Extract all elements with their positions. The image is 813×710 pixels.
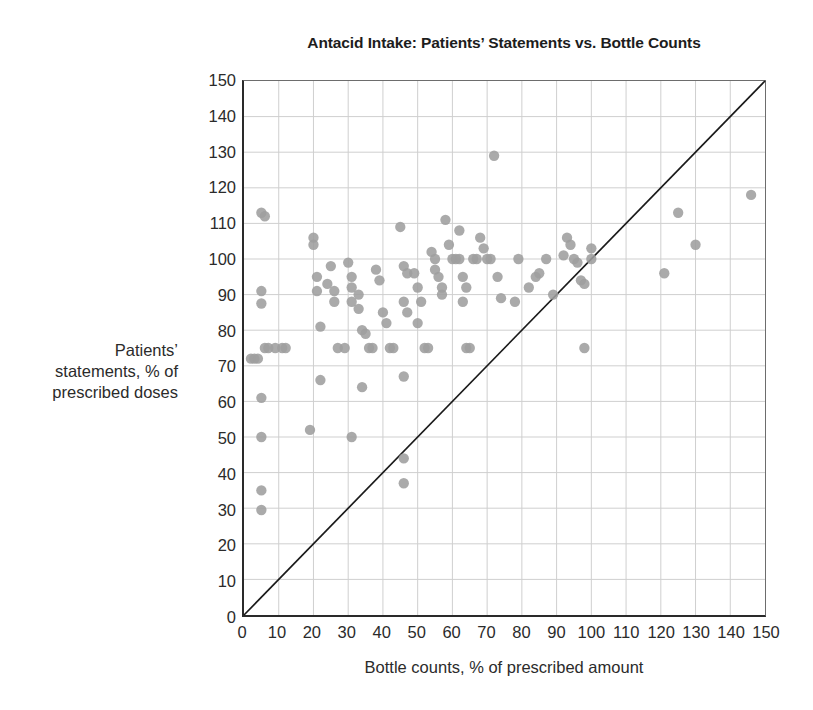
data-point bbox=[524, 282, 534, 292]
data-point bbox=[690, 240, 700, 250]
y-tick-label: 140 bbox=[192, 108, 236, 125]
data-point bbox=[281, 343, 291, 353]
data-point bbox=[496, 293, 506, 303]
y-tick-label: 70 bbox=[192, 358, 236, 375]
data-point bbox=[412, 282, 422, 292]
data-point bbox=[402, 307, 412, 317]
y-tick-label: 10 bbox=[192, 573, 236, 590]
data-point bbox=[256, 298, 266, 308]
data-point bbox=[572, 257, 582, 267]
y-tick-label: 20 bbox=[192, 537, 236, 554]
data-point bbox=[253, 354, 263, 364]
data-point bbox=[357, 382, 367, 392]
data-point bbox=[430, 254, 440, 264]
data-point bbox=[492, 272, 502, 282]
y-tick-label: 30 bbox=[192, 502, 236, 519]
data-point bbox=[399, 371, 409, 381]
y-tick-label: 150 bbox=[192, 72, 236, 89]
y-axis-title-line: prescribed doses bbox=[10, 382, 178, 403]
data-point bbox=[326, 261, 336, 271]
data-point bbox=[308, 240, 318, 250]
x-axis-title: Bottle counts, % of prescribed amount bbox=[242, 658, 766, 677]
plot-area bbox=[242, 80, 766, 617]
data-point bbox=[465, 343, 475, 353]
data-point bbox=[353, 289, 363, 299]
y-tick-label: 130 bbox=[192, 144, 236, 161]
x-axis-tick-labels: 0102030405060708090100110120130140150 bbox=[242, 624, 766, 648]
data-point bbox=[510, 297, 520, 307]
data-points bbox=[244, 81, 765, 615]
data-point bbox=[458, 272, 468, 282]
data-point bbox=[558, 250, 568, 260]
data-point bbox=[423, 343, 433, 353]
scatter-chart-figure: Antacid Intake: Patients’ Statements vs.… bbox=[0, 0, 813, 710]
data-point bbox=[746, 190, 756, 200]
data-point bbox=[399, 453, 409, 463]
data-point bbox=[586, 254, 596, 264]
data-point bbox=[371, 265, 381, 275]
data-point bbox=[454, 254, 464, 264]
data-point bbox=[340, 343, 350, 353]
data-point bbox=[395, 222, 405, 232]
data-point bbox=[541, 254, 551, 264]
data-point bbox=[353, 304, 363, 314]
data-point bbox=[260, 211, 270, 221]
data-point bbox=[347, 272, 357, 282]
data-point bbox=[586, 243, 596, 253]
data-point bbox=[409, 268, 419, 278]
data-point bbox=[475, 232, 485, 242]
data-point bbox=[367, 343, 377, 353]
data-point bbox=[315, 321, 325, 331]
data-point bbox=[381, 318, 391, 328]
data-point bbox=[329, 286, 339, 296]
data-point bbox=[659, 268, 669, 278]
data-point bbox=[412, 318, 422, 328]
data-point bbox=[360, 329, 370, 339]
y-axis-title: Patients’statements, % ofprescribed dose… bbox=[10, 340, 178, 403]
data-point bbox=[472, 254, 482, 264]
data-point bbox=[312, 272, 322, 282]
data-point bbox=[256, 485, 266, 495]
data-point bbox=[461, 282, 471, 292]
data-point bbox=[256, 393, 266, 403]
y-tick-label: 50 bbox=[192, 430, 236, 447]
data-point bbox=[579, 343, 589, 353]
data-point bbox=[256, 505, 266, 515]
data-point bbox=[513, 254, 523, 264]
data-point bbox=[256, 432, 266, 442]
data-point bbox=[343, 257, 353, 267]
data-point bbox=[534, 268, 544, 278]
y-axis-title-line: statements, % of bbox=[10, 361, 178, 382]
data-point bbox=[378, 307, 388, 317]
data-point bbox=[454, 225, 464, 235]
data-point bbox=[329, 297, 339, 307]
data-point bbox=[444, 240, 454, 250]
data-point bbox=[399, 297, 409, 307]
y-axis-tick-labels: 0102030405060708090100110120130140150 bbox=[184, 80, 236, 617]
data-point bbox=[347, 432, 357, 442]
y-tick-label: 110 bbox=[192, 215, 236, 232]
data-point bbox=[565, 240, 575, 250]
data-point bbox=[399, 478, 409, 488]
data-point bbox=[579, 279, 589, 289]
data-point bbox=[312, 286, 322, 296]
data-point bbox=[388, 343, 398, 353]
data-point bbox=[256, 286, 266, 296]
data-point bbox=[315, 375, 325, 385]
data-point bbox=[374, 275, 384, 285]
x-tick-label: 150 bbox=[743, 624, 789, 641]
data-point bbox=[478, 243, 488, 253]
data-point bbox=[548, 289, 558, 299]
data-point bbox=[485, 254, 495, 264]
chart-title: Antacid Intake: Patients’ Statements vs.… bbox=[242, 34, 766, 52]
y-tick-label: 100 bbox=[192, 251, 236, 268]
y-tick-label: 80 bbox=[192, 323, 236, 340]
data-point bbox=[458, 297, 468, 307]
y-tick-label: 60 bbox=[192, 394, 236, 411]
data-point bbox=[433, 272, 443, 282]
data-point bbox=[305, 425, 315, 435]
data-point bbox=[416, 297, 426, 307]
data-point bbox=[437, 289, 447, 299]
y-axis-title-line: Patients’ bbox=[10, 340, 178, 361]
y-tick-label: 90 bbox=[192, 287, 236, 304]
